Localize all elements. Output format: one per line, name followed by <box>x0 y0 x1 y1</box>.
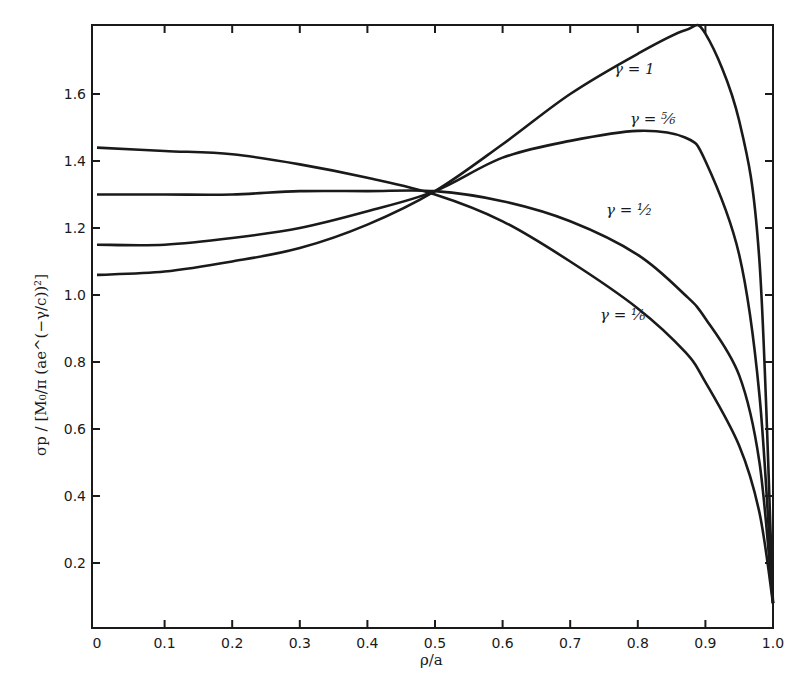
y-axis-title: σp / [M₀/π (ae^(−γ/c))²] <box>32 274 50 456</box>
x-tick-label: 0.6 <box>491 635 513 651</box>
y-tick-label: 0.2 <box>64 555 86 571</box>
curve-series-2 <box>97 190 773 603</box>
y-tick-label: 0.4 <box>64 488 86 504</box>
label-gamma-1: γ = 1 <box>614 60 655 78</box>
y-tick-label: 0.8 <box>64 354 86 370</box>
y-tick-label: 1.0 <box>64 287 86 303</box>
line-chart: 00.10.20.30.40.50.60.70.80.91.00.20.40.6… <box>0 0 806 686</box>
curve-series-3 <box>97 148 773 604</box>
y-tick-label: 1.6 <box>64 86 86 102</box>
label-gamma-1-6: γ = ¹⁄₆ <box>600 306 646 324</box>
x-tick-label: 0.2 <box>221 635 243 651</box>
x-tick-label: 0 <box>93 635 102 651</box>
label-gamma-1-2: γ = ¹⁄₂ <box>606 201 652 219</box>
curve-series-1 <box>97 131 773 603</box>
axis-tick-labels: 00.10.20.30.40.50.60.70.80.91.00.20.40.6… <box>64 86 784 651</box>
x-tick-label: 0.7 <box>559 635 581 651</box>
x-tick-label: 0.4 <box>356 635 378 651</box>
x-tick-label: 0.1 <box>153 635 175 651</box>
x-tick-label: 0.3 <box>289 635 311 651</box>
x-tick-label: 1.0 <box>762 635 784 651</box>
y-tick-label: 1.2 <box>64 220 86 236</box>
x-tick-label: 0.9 <box>694 635 716 651</box>
x-tick-label: 0.8 <box>627 635 649 651</box>
y-tick-label: 0.6 <box>64 421 86 437</box>
label-gamma-5-6: γ = ⁵⁄₆ <box>630 110 676 128</box>
x-tick-label: 0.5 <box>424 635 446 651</box>
y-tick-label: 1.4 <box>64 153 86 169</box>
x-axis-title: ρ/a <box>420 651 443 669</box>
